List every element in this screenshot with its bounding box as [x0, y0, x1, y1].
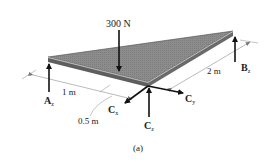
reaction-cx-main: C [108, 104, 115, 115]
reaction-arrow-icon [148, 86, 183, 93]
reaction-az: Az [44, 64, 54, 107]
applied-force-label: 300 N [106, 18, 131, 29]
reaction-cz-main: C [144, 120, 151, 131]
reaction-cx: Cx [108, 86, 148, 116]
dimension-1m: 1 m [62, 87, 76, 97]
reaction-cy: Cy [148, 86, 195, 105]
reaction-bz: Bz [235, 37, 251, 74]
reaction-cz: Cz [144, 88, 154, 132]
svg-text:Bz: Bz [241, 62, 251, 74]
reaction-arrow-icon [125, 86, 148, 103]
svg-text:Cx: Cx [108, 104, 118, 116]
plate-top-face [48, 31, 233, 82]
svg-text:Cz: Cz [144, 120, 154, 132]
reaction-cz-sub: z [151, 126, 154, 132]
triangular-plate [48, 31, 233, 87]
reaction-cy-sub: y [192, 99, 195, 105]
dimension-2m: 2 m [207, 66, 221, 76]
reaction-cy-main: C [185, 93, 192, 104]
free-body-diagram: 300 N Az Bz Cx Cy Cz 1 m 0.5 m 2 m [0, 0, 276, 165]
figure-caption: (a) [133, 143, 143, 153]
svg-text:Az: Az [44, 95, 54, 107]
dimension-0-5m: 0.5 m [78, 116, 99, 126]
reaction-cx-sub: x [115, 110, 118, 116]
svg-text:Cy: Cy [185, 93, 195, 105]
reaction-bz-sub: z [248, 68, 251, 74]
reaction-az-sub: z [51, 101, 54, 107]
